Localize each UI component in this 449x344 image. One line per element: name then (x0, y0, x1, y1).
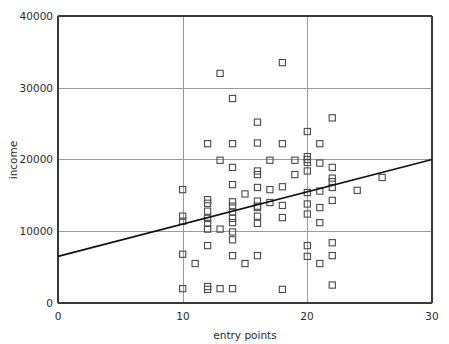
x-axis-title: entry points (213, 329, 276, 341)
x-axis-tick-labels: 0 10 20 30 (55, 310, 439, 322)
chart-canvas: 40000 30000 20000 10000 0 0 10 20 30 ent… (0, 0, 449, 344)
y-tick-label-20000: 20000 (20, 153, 53, 165)
x-tick-label-20: 20 (300, 310, 313, 322)
y-axis-tick-labels: 40000 30000 20000 10000 0 (20, 10, 53, 309)
x-tick-label-30: 30 (425, 310, 438, 322)
y-tick-label-30000: 30000 (20, 82, 53, 94)
y-tick-label-40000: 40000 (20, 10, 53, 22)
scatter-plot-figure: 40000 30000 20000 10000 0 0 10 20 30 ent… (0, 0, 449, 344)
x-tick-label-0: 0 (55, 310, 62, 322)
y-tick-label-0: 0 (46, 297, 53, 309)
y-tick-label-10000: 10000 (20, 225, 53, 237)
x-tick-label-10: 10 (176, 310, 189, 322)
y-axis-title: income (7, 141, 19, 179)
